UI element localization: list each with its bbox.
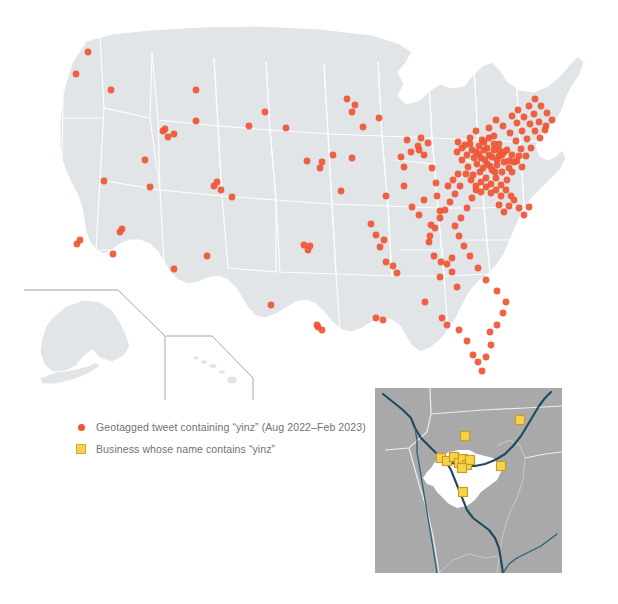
tweet-dot <box>349 155 356 162</box>
tweet-dot <box>501 159 508 166</box>
tweet-dot <box>499 152 506 159</box>
alaska-land <box>40 300 130 372</box>
tweet-dot <box>463 171 470 178</box>
tweet-dot <box>433 180 440 187</box>
tweet-dot <box>459 145 466 152</box>
tweet-dot <box>432 225 439 232</box>
tweet-dot <box>456 327 463 334</box>
tweet-dot <box>452 223 459 230</box>
tweet-dot <box>338 188 345 195</box>
tweet-dot <box>483 184 490 191</box>
tweet-dot <box>431 253 438 260</box>
tweet-dot <box>246 123 253 130</box>
tweet-dot <box>101 178 108 185</box>
tweet-dot <box>74 241 81 248</box>
yinz-distribution-figure: Geotagged tweet containing “yinz” (Aug 2… <box>0 0 618 604</box>
tweet-dot <box>373 232 380 239</box>
tweet-dot <box>445 183 452 190</box>
tweet-dot <box>500 123 507 130</box>
tweet-dot <box>108 87 115 94</box>
tweet-dot <box>496 202 503 209</box>
tweet-dot <box>478 189 485 196</box>
tweet-dot <box>467 135 474 142</box>
tweet-dot <box>538 103 545 110</box>
tweet-dot <box>422 299 429 306</box>
tweet-dot <box>368 221 375 228</box>
tweet-dot <box>493 117 500 124</box>
tweet-dot <box>204 253 211 260</box>
tweet-dot <box>381 237 388 244</box>
tweet-dot <box>457 183 464 190</box>
tweet-dot <box>473 183 480 190</box>
tweet-dot <box>514 158 521 165</box>
tweet-dot <box>475 359 482 366</box>
tweet-dot <box>330 152 337 159</box>
tweet-dot <box>376 115 383 122</box>
tweet-dot <box>162 126 169 133</box>
tweet-dot <box>380 317 387 324</box>
pittsburgh-inset-svg <box>375 388 562 573</box>
tweet-dot <box>467 141 474 148</box>
tweet-dot <box>516 205 523 212</box>
tweet-dot <box>377 244 384 251</box>
tweet-dot <box>504 147 511 154</box>
tweet-dot <box>437 274 444 281</box>
tweet-dot <box>500 310 507 317</box>
business-square <box>458 464 467 473</box>
tweet-dot <box>142 157 149 164</box>
tweet-dot <box>475 265 482 272</box>
tweet-dot <box>527 121 534 128</box>
tweet-dot <box>165 134 172 141</box>
tweet-dot <box>458 215 465 222</box>
us-map <box>0 0 618 400</box>
hawaii-islands <box>193 356 238 384</box>
tweet-dot <box>470 352 477 359</box>
tweet-dot <box>438 259 445 266</box>
tweet-dot <box>305 247 312 254</box>
tweet-dot <box>514 120 521 127</box>
tweet-dot <box>444 261 451 268</box>
tweet-dot <box>519 164 526 171</box>
tweet-dot <box>486 152 493 159</box>
tweet-dot <box>464 338 471 345</box>
tweet-dot <box>349 109 356 116</box>
tweet-dot <box>488 342 495 349</box>
tweet-dot <box>456 233 463 240</box>
tweet-dot <box>425 140 432 147</box>
tweet-dot <box>489 167 496 174</box>
tweet-dot <box>506 203 513 210</box>
tweet-dot <box>465 164 472 171</box>
tweet-dot <box>519 128 526 135</box>
tweet-dot <box>352 102 359 109</box>
tweet-dot <box>532 96 539 103</box>
tweet-dot <box>483 354 490 361</box>
tweet-dot <box>469 195 476 202</box>
legend-label-tweets: Geotagged tweet containing “yinz” (Aug 2… <box>96 421 366 434</box>
tweet-dot <box>544 110 551 117</box>
tweet-dot <box>483 175 490 182</box>
tweet-dot <box>262 109 269 116</box>
tweet-dot <box>229 194 236 201</box>
tweet-dot <box>504 177 511 184</box>
tweet-dot <box>524 136 531 143</box>
tweet-dot <box>401 183 408 190</box>
tweet-dot <box>499 169 506 176</box>
tweet-dot <box>491 141 498 148</box>
tweet-dot <box>531 111 538 118</box>
tweet-dot <box>394 270 401 277</box>
tweet-dot <box>429 165 436 172</box>
tweet-dot <box>427 233 434 240</box>
tweet-dot <box>515 107 522 114</box>
tweet-dot <box>486 125 493 132</box>
tweet-dot <box>521 114 528 121</box>
tweet-dot <box>119 226 126 233</box>
tweet-dot <box>317 165 324 172</box>
tweet-dot <box>193 118 200 125</box>
hawaii-inset <box>166 336 253 400</box>
tweet-dot <box>526 204 533 211</box>
tweet-dot <box>464 205 471 212</box>
tweet-dot <box>474 161 481 168</box>
tweet-dot <box>315 324 322 331</box>
tweet-dot <box>503 187 510 194</box>
business-square <box>459 488 468 497</box>
